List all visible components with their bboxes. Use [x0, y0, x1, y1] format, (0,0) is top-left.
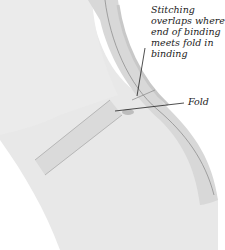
- stitching-callout-label: Stitching overlaps where end of binding …: [151, 4, 225, 59]
- diagram-canvas: Stitching overlaps where end of binding …: [0, 0, 225, 250]
- fold-callout-label: Fold: [188, 96, 209, 107]
